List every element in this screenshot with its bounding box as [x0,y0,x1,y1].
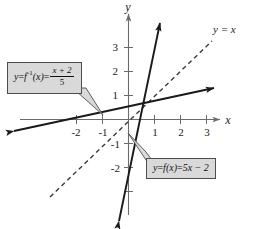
y-tick-label-1: 1 [113,89,119,101]
forward-callout-rhs: 5x − 2 [183,163,209,174]
x-tick-label-1: 1 [152,126,158,138]
y-tick-label--1: -1 [111,138,120,150]
y-tick-label-3: 3 [113,41,119,53]
inverse-callout-denominator: 5 [50,78,73,87]
y-tick-label--2: -2 [111,162,120,174]
inverse-function-callout: y=f-1(x)= x + 2 5 [7,62,82,94]
inverse-callout-fraction: x + 2 5 [50,66,73,87]
graph-canvas: -2 -1 1 2 3 3 2 1 -1 -2 x y y = x [0,0,256,229]
forward-function-line [119,23,160,221]
x-tick-label-3: 3 [204,126,210,138]
x-tick-labels: -2 -1 1 2 3 [71,126,210,138]
x-axis-label: x [224,113,231,127]
y-tick-label-2: 2 [113,65,119,77]
forward-callout-argument: (x) [166,163,177,174]
y-axis-label: y [124,0,131,14]
y-tick-labels: 3 2 1 -1 -2 [111,41,120,174]
x-tick-label--1: -1 [98,126,107,138]
inverse-callout-argument: (x) [33,72,44,83]
identity-line-label: y = x [212,23,236,35]
forward-function-callout: y=f(x)=5x − 2 [146,158,216,179]
x-tick-label-2: 2 [178,126,184,138]
inverse-callout-equals-2: = [44,72,50,83]
inverse-callout-numerator: x + 2 [50,66,73,75]
function-inverse-graph-figure: -2 -1 1 2 3 3 2 1 -1 -2 x y y = x y=f-1(… [0,0,256,229]
x-tick-label--2: -2 [71,126,80,138]
